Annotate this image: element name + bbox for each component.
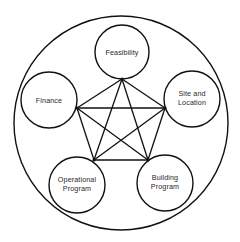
connection-lines <box>77 79 165 160</box>
operational-label-line-2: Program <box>63 184 91 193</box>
edge-feasibility-building <box>122 79 148 160</box>
node-building-program: Building Program <box>137 155 193 211</box>
vertex-operational <box>92 158 95 161</box>
operational-label-line-1: Operational <box>58 175 97 184</box>
node-operational-program: Operational Program <box>49 157 105 213</box>
vertex-building <box>146 158 149 161</box>
edge-feasibility-operational <box>94 79 122 160</box>
relationship-diagram: Feasibility Site and Location Finance Op… <box>0 0 240 242</box>
node-finance: Finance <box>21 72 77 128</box>
connection-vertices <box>75 77 166 161</box>
vertex-feasibility <box>120 77 123 80</box>
node-site-and-location: Site and Location <box>164 71 220 127</box>
site-label-line-2: Location <box>178 98 206 107</box>
edge-feasibility-finance <box>77 79 122 108</box>
edge-site-building <box>148 108 165 160</box>
building-label-line-2: Program <box>151 182 179 191</box>
edge-feasibility-site <box>122 79 165 108</box>
site-label-line-1: Site and <box>178 89 205 98</box>
feasibility-label: Feasibility <box>105 48 138 57</box>
vertex-site <box>163 106 166 109</box>
vertex-finance <box>75 106 78 109</box>
edge-operational-finance <box>77 108 94 160</box>
edge-site-operational <box>94 108 165 160</box>
edge-building-finance <box>77 108 148 160</box>
finance-label: Finance <box>36 96 62 105</box>
building-label-line-1: Building <box>152 173 178 182</box>
node-feasibility: Feasibility <box>95 25 149 79</box>
